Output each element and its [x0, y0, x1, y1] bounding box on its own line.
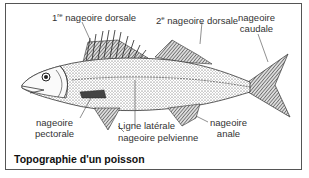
- first-dorsal-fin: [83, 30, 148, 62]
- label-anal-fin: nageoire anale: [210, 117, 247, 139]
- label-first-dorsal-fin: 1re nageoire dorsale: [52, 10, 136, 23]
- label-second-dorsal-fin: 2e nageoire dorsale: [156, 13, 238, 26]
- label-caudal-fin: nageoire caudale: [238, 12, 275, 34]
- diagram-title: Topographie d'un poisson: [14, 153, 145, 165]
- fish-head: [22, 66, 68, 98]
- label-lateral-line: Ligne latérale: [118, 120, 175, 131]
- eye: [42, 73, 50, 81]
- label-pectoral-fin: nageoire pectorale: [35, 117, 74, 139]
- label-pelvic-fin: nageoire pelvienne: [118, 132, 198, 143]
- caudal-fin: [248, 54, 290, 117]
- pelvic-fin: [94, 108, 120, 130]
